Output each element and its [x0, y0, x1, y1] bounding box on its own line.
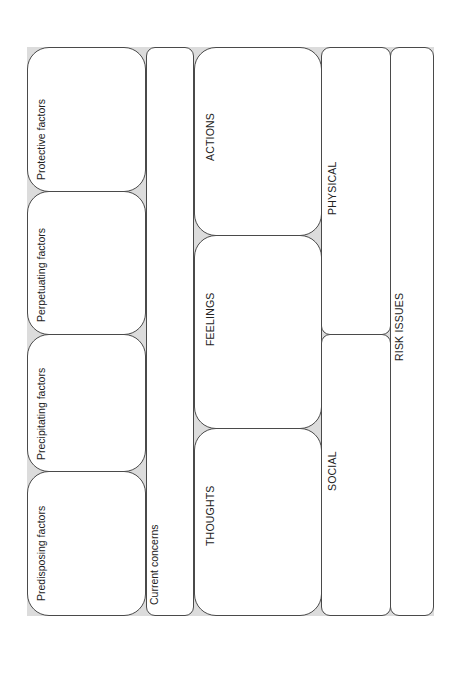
precipitating-factors-label: Precipitating factors	[36, 368, 47, 460]
social-label: SOCIAL	[327, 451, 338, 491]
thoughts-label: THOUGHTS	[205, 485, 216, 546]
feelings-label: FEELINGS	[205, 292, 216, 346]
perpetuating-factors-label: Perpetuating factors	[36, 228, 47, 322]
current-concerns-label: Current concerns	[149, 524, 160, 605]
physical-label: PHYSICAL	[327, 161, 338, 215]
protective-factors-label: Protective factors	[36, 99, 47, 180]
risk-issues-label: RISK ISSUES	[394, 293, 405, 361]
actions-label: ACTIONS	[205, 113, 216, 161]
predisposing-factors-label: Predisposing factors	[36, 506, 47, 601]
